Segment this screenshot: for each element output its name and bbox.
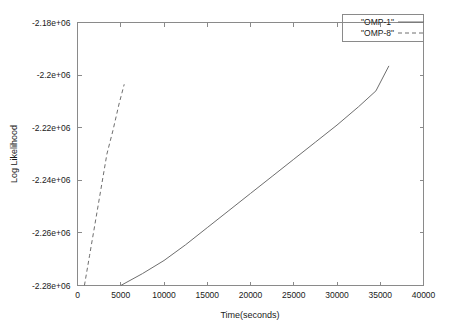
- plot-frame: [78, 23, 424, 286]
- y-tick-label: -2.28e+06: [32, 281, 71, 291]
- y-tick-label: -2.22e+06: [32, 123, 71, 133]
- y-tick-label: -2.26e+06: [32, 228, 71, 238]
- y-axis-title: Log Likelihood: [9, 125, 19, 183]
- x-axis-tick-labels: 0500010000150002000025000300003500040000: [75, 290, 435, 300]
- x-tick-label: 0: [75, 290, 80, 300]
- x-tick-label: 10000: [152, 290, 176, 300]
- y-tick-label: -2.24e+06: [32, 175, 71, 185]
- x-axis-title: Time(seconds): [220, 310, 279, 320]
- legend-label-omp-8: "OMP-8": [361, 28, 394, 38]
- series-line-omp-8: [84, 84, 124, 285]
- series-line-omp-1: [121, 66, 389, 286]
- x-axis-ticks: [78, 23, 424, 286]
- x-tick-label: 30000: [325, 290, 349, 300]
- legend-label-omp-1: "OMP-1": [361, 17, 394, 27]
- y-axis-ticks: [78, 23, 424, 286]
- data-series-group: [84, 66, 388, 286]
- x-tick-label: 25000: [282, 290, 306, 300]
- line-chart: 0500010000150002000025000300003500040000…: [0, 0, 452, 332]
- x-tick-label: 40000: [412, 290, 436, 300]
- chart-container: 0500010000150002000025000300003500040000…: [0, 0, 452, 332]
- y-axis-tick-labels: -2.28e+06-2.26e+06-2.24e+06-2.22e+06-2.2…: [32, 18, 71, 291]
- x-tick-label: 20000: [239, 290, 263, 300]
- x-tick-label: 5000: [111, 290, 130, 300]
- y-tick-label: -2.18e+06: [32, 18, 71, 28]
- x-tick-label: 35000: [368, 290, 392, 300]
- y-tick-label: -2.2e+06: [37, 70, 71, 80]
- x-tick-label: 15000: [195, 290, 219, 300]
- chart-legend: "OMP-1" "OMP-8": [343, 15, 425, 42]
